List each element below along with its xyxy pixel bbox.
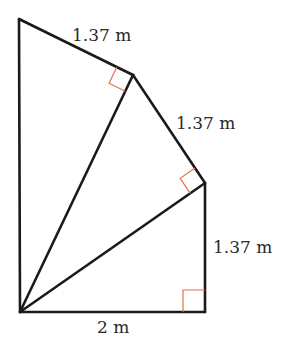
upper-right-edge-label: 1.37 m [176,113,235,133]
right-angle-marker-d [183,290,205,312]
left-edge [19,19,20,312]
diagram-canvas: 1.37 m 1.37 m 1.37 m 2 m [0,0,284,345]
diagonal-to-c [20,183,205,312]
top-edge-label: 1.37 m [72,25,131,45]
diagonal-to-b [20,75,133,312]
bottom-edge-label: 2 m [97,317,129,337]
right-angle-marker-c [180,168,195,193]
right-edge-label: 1.37 m [213,237,272,257]
